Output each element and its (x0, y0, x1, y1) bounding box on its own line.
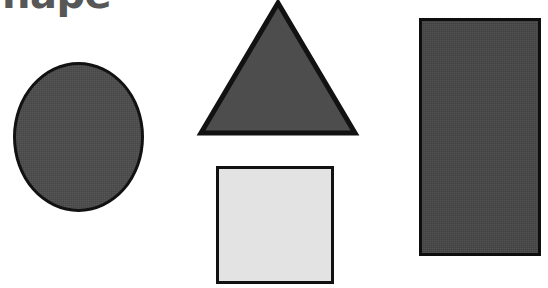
page-title: hape (0, 0, 200, 24)
shape-circle (13, 62, 144, 212)
shape-triangle (196, 0, 360, 140)
shape-square (216, 166, 334, 284)
page-title-text: hape (2, 0, 111, 14)
triangle-icon (196, 0, 360, 140)
shapes-canvas: hape (0, 0, 548, 288)
shape-rectangle (419, 18, 541, 256)
